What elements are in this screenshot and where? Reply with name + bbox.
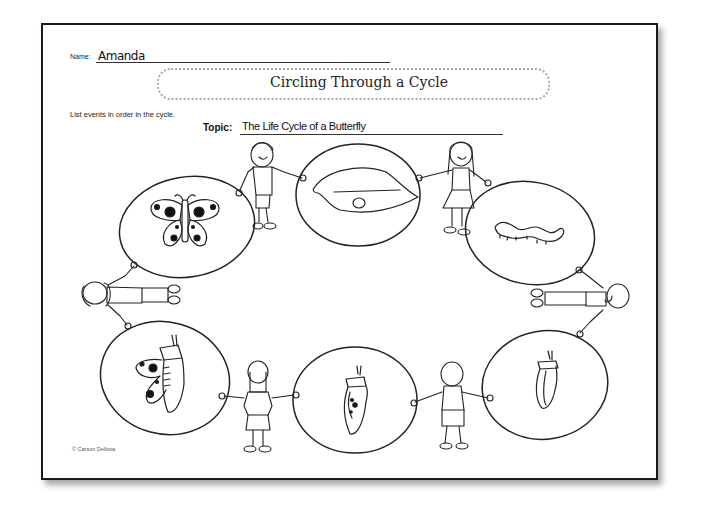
copyright-notice: © Carson Dellosa bbox=[72, 446, 115, 452]
chrysalis-developing-icon bbox=[344, 366, 367, 434]
stage-top-left bbox=[111, 166, 262, 288]
child-girl-bottom-left bbox=[219, 361, 299, 452]
child-girl-top-right bbox=[416, 142, 491, 235]
stage-bottom-right bbox=[474, 321, 617, 449]
butterfly-emerging-icon bbox=[136, 335, 184, 412]
stage-bottom-left bbox=[88, 307, 243, 449]
child-boy-bottom-right bbox=[411, 362, 493, 449]
caterpillar-icon bbox=[495, 222, 564, 244]
child-boy-top-left bbox=[236, 143, 306, 230]
stage-top-right bbox=[456, 170, 604, 297]
stage-bottom-center bbox=[293, 347, 417, 453]
life-cycle-diagram bbox=[0, 0, 703, 511]
child-girl-left bbox=[82, 262, 180, 329]
butterfly-icon bbox=[151, 195, 219, 246]
egg-on-leaf-icon bbox=[313, 168, 418, 212]
child-boy-right bbox=[531, 267, 629, 337]
chrysalis-icon bbox=[536, 351, 558, 408]
stage-top-center bbox=[296, 144, 420, 246]
